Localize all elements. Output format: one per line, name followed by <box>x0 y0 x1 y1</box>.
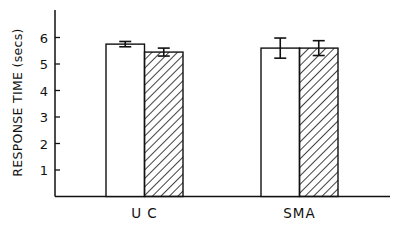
bars <box>106 38 338 196</box>
y-axis-label: RESPONSE TIME (secs) <box>10 28 25 178</box>
y-tick-label: 3 <box>40 110 48 125</box>
bar-uc-open <box>106 44 145 196</box>
x-category-label: U C <box>131 205 158 221</box>
bar-chart: 123456 U CSMA <box>0 0 400 228</box>
y-tick-label: 2 <box>40 137 48 152</box>
y-tick-label: 6 <box>40 31 48 46</box>
x-axis-labels: U CSMA <box>131 205 316 221</box>
bar-uc-hatched <box>145 52 184 196</box>
x-category-label: SMA <box>283 205 315 221</box>
bar-sma-open <box>261 48 300 196</box>
bar-sma-hatched <box>300 48 339 196</box>
y-tick-label: 5 <box>40 57 48 72</box>
y-tick-label: 4 <box>40 84 48 99</box>
y-tick-label: 1 <box>40 163 48 178</box>
